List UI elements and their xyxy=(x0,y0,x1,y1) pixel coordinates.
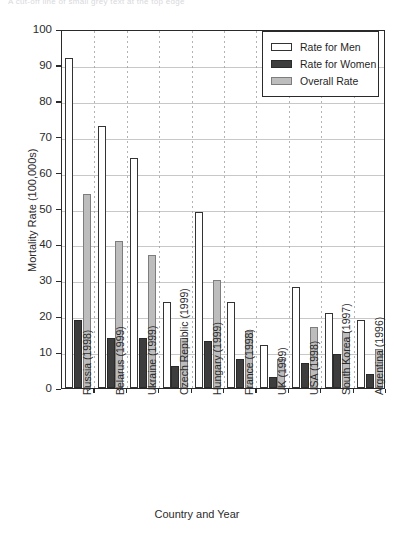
chart-legend: Rate for Men Rate for Women Overall Rate xyxy=(262,31,379,97)
bar-men-9 xyxy=(357,320,365,388)
x-tick-label-5: France (1998) xyxy=(243,329,255,395)
x-tick-mark-7 xyxy=(320,389,321,393)
group-separator-4 xyxy=(192,31,193,388)
y-tick-label-0: 0 xyxy=(8,383,52,394)
bar-men-7 xyxy=(292,287,300,388)
chart-figure: A cut-off line of small grey text at the… xyxy=(0,0,394,543)
y-tick-label-10: 10 xyxy=(8,347,52,358)
gridline-20 xyxy=(62,318,384,319)
group-separator-3 xyxy=(159,31,160,388)
group-separator-5 xyxy=(224,31,225,388)
bar-men-1 xyxy=(98,126,106,388)
x-tick-label-6: UK (1999) xyxy=(276,347,288,395)
x-tick-mark-5 xyxy=(255,389,256,393)
y-tick-label-90: 90 xyxy=(8,60,52,71)
y-tick-label-40: 40 xyxy=(8,239,52,250)
group-separator-6 xyxy=(256,31,257,388)
y-tick-label-30: 30 xyxy=(8,275,52,286)
x-tick-mark-2 xyxy=(158,389,159,393)
gridline-60 xyxy=(62,175,384,176)
gridline-80 xyxy=(62,103,384,104)
x-tick-mark-9 xyxy=(385,389,386,393)
x-tick-mark-4 xyxy=(223,389,224,393)
x-tick-label-9: Argentina (1996) xyxy=(373,317,385,395)
x-tick-mark-8 xyxy=(353,389,354,393)
group-separator-2 xyxy=(127,31,128,388)
legend-swatch-women xyxy=(271,60,292,68)
gridline-40 xyxy=(62,246,384,247)
y-tick-label-70: 70 xyxy=(8,132,52,143)
bar-men-6 xyxy=(260,345,268,388)
legend-item-women: Rate for Women xyxy=(271,56,371,72)
bar-men-8 xyxy=(325,313,333,388)
gridline-30 xyxy=(62,282,384,283)
bar-men-5 xyxy=(227,302,235,388)
y-tick-label-60: 60 xyxy=(8,168,52,179)
y-tick-label-80: 80 xyxy=(8,96,52,107)
x-tick-label-2: Ukraine (1999) xyxy=(146,326,158,395)
group-separator-1 xyxy=(94,31,95,388)
legend-swatch-men xyxy=(271,43,292,51)
x-tick-label-4: Hungary (1999) xyxy=(211,322,223,395)
x-tick-label-0: Russia (1998) xyxy=(81,330,93,395)
x-tick-label-3: Czech Republic (1999) xyxy=(178,288,190,395)
legend-item-men: Rate for Men xyxy=(271,39,371,55)
legend-label-women: Rate for Women xyxy=(300,59,376,70)
bar-men-4 xyxy=(195,212,203,388)
legend-swatch-overall xyxy=(271,77,292,85)
legend-label-overall: Overall Rate xyxy=(300,76,358,87)
x-tick-mark-0 xyxy=(93,389,94,393)
legend-item-overall: Overall Rate xyxy=(271,73,371,89)
gridline-50 xyxy=(62,211,384,212)
x-tick-label-1: Belarus (1999) xyxy=(114,326,126,395)
bar-men-0 xyxy=(65,58,73,388)
y-tick-label-100: 100 xyxy=(8,24,52,35)
legend-label-men: Rate for Men xyxy=(300,42,361,53)
x-tick-label-8: South Korea (1997) xyxy=(340,303,352,395)
gridline-70 xyxy=(62,139,384,140)
bar-men-3 xyxy=(163,302,171,388)
bar-men-2 xyxy=(130,158,138,388)
x-axis-title: Country and Year xyxy=(0,508,394,520)
clipped-header-text: A cut-off line of small grey text at the… xyxy=(8,0,338,6)
x-tick-mark-3 xyxy=(191,389,192,393)
x-tick-label-7: USA (1998) xyxy=(308,341,320,395)
y-tick-label-20: 20 xyxy=(8,311,52,322)
y-tick-label-50: 50 xyxy=(8,204,52,215)
